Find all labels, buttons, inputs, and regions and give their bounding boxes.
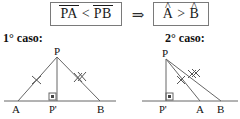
circumflex-b-icon: ^ [191,0,197,12]
segment-pb-label: PB [93,7,113,21]
thesis-formula-box: ^A > ^B [153,2,209,26]
geometry-figure-page: PA < PB ⇒ ^A > ^B 1° caso: 2° caso: [0,0,240,119]
label-p-1: P [54,46,60,57]
implies-arrow-icon: ⇒ [128,6,148,24]
thesis-operator: > [177,7,185,21]
case-2-diagram: P P' A B [120,46,240,119]
label-p-2: P [162,47,168,59]
right-angle-dot-2 [168,95,171,98]
label-pprime-2: P' [159,104,167,115]
hypothesis-formula-box: PA < PB [50,2,122,26]
tick-pa-1 [32,76,41,84]
case-1-svg: P A P' B [0,46,120,119]
hypothesis-operator: < [82,7,90,21]
case-2-caption: 2° caso: [165,31,205,46]
label-b-1: B [97,103,104,115]
case-1-caption: 1° caso: [3,31,43,46]
side-pb-2 [166,59,221,101]
hypothesis-expression: PA < PB [59,7,112,21]
angle-a-label: ^A [162,7,174,21]
label-a-2: A [196,103,204,115]
label-pprime-1: P' [49,104,57,115]
tick-pb-1 [74,72,86,82]
thesis-expression: ^A > ^B [162,7,200,21]
label-b-2: B [217,103,224,115]
tick-pb-2 [188,69,200,78]
case-2-svg: P P' A B [120,46,240,119]
right-angle-dot-1 [51,95,54,98]
side-pb-1 [57,57,100,101]
circumflex-a-icon: ^ [165,0,171,12]
side-pa-2 [166,59,200,101]
angle-b-label: ^B [188,7,200,21]
implication-row: PA < PB ⇒ ^A > ^B [0,2,240,28]
segment-pa-label: PA [59,7,78,21]
case-1-diagram: P A P' B [0,46,120,119]
label-a-1: A [12,103,20,115]
